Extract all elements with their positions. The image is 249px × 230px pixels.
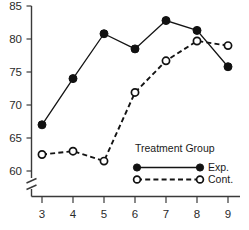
y-tick-label-60: 60: [9, 165, 22, 177]
x-tick-label-8: 8: [194, 208, 200, 220]
legend-swatch-marker-exp-start: [133, 164, 140, 171]
y-tick-label-75: 75: [9, 66, 22, 78]
x-tick-label-7: 7: [163, 208, 169, 220]
y-tick-label-85: 85: [9, 0, 22, 12]
x-tick-label-4: 4: [70, 208, 77, 220]
x-axis-ticks: [42, 197, 228, 204]
y-axis-tick-labels: 606570758085: [9, 0, 22, 177]
legend-swatch-marker-exp-end: [196, 164, 203, 171]
data-point-cont-5: [100, 158, 107, 165]
y-tick-label-65: 65: [9, 132, 22, 144]
data-point-exp-8: [193, 26, 201, 34]
data-point-exp-6: [131, 45, 139, 53]
data-point-exp-9: [224, 63, 232, 71]
data-point-cont-9: [224, 42, 231, 49]
legend-entry-exp: Exp.: [133, 161, 229, 173]
series-line-exp: [42, 21, 228, 125]
y-axis-ticks: [27, 6, 32, 171]
y-tick-label-80: 80: [9, 33, 22, 45]
y-axis-break-symbol: [27, 179, 37, 184]
legend-title: Treatment Group: [135, 142, 215, 154]
legend-label-cont: Cont.: [208, 173, 233, 185]
x-axis: 3456789: [32, 197, 241, 221]
legend-swatch-marker-cont-end: [197, 176, 204, 183]
x-axis-tick-labels: 3456789: [39, 208, 231, 220]
data-point-exp-4: [69, 75, 77, 83]
legend-label-exp: Exp.: [208, 161, 229, 173]
x-tick-label-5: 5: [101, 208, 107, 220]
data-point-cont-6: [131, 89, 138, 96]
data-point-exp-5: [100, 30, 108, 38]
x-tick-label-9: 9: [225, 208, 231, 220]
line-chart: 606570758085 3456789 Treatment Group Exp…: [0, 0, 249, 230]
data-point-cont-8: [193, 37, 200, 44]
data-point-exp-7: [162, 17, 170, 25]
y-axis-break-symbol-lower: [27, 185, 37, 190]
x-tick-label-3: 3: [39, 208, 45, 220]
y-axis: 606570758085: [9, 0, 36, 197]
legend-swatch-marker-cont-start: [134, 176, 141, 183]
chart-canvas: 606570758085 3456789 Treatment Group Exp…: [0, 0, 249, 230]
data-point-cont-4: [69, 148, 76, 155]
data-point-exp-3: [38, 121, 46, 129]
chart-legend: Treatment Group Exp. Cont.: [133, 142, 233, 185]
legend-entry-cont: Cont.: [134, 173, 234, 185]
y-tick-label-70: 70: [9, 99, 22, 111]
x-tick-label-6: 6: [132, 208, 138, 220]
data-point-cont-7: [162, 57, 169, 64]
data-point-cont-3: [38, 151, 45, 158]
